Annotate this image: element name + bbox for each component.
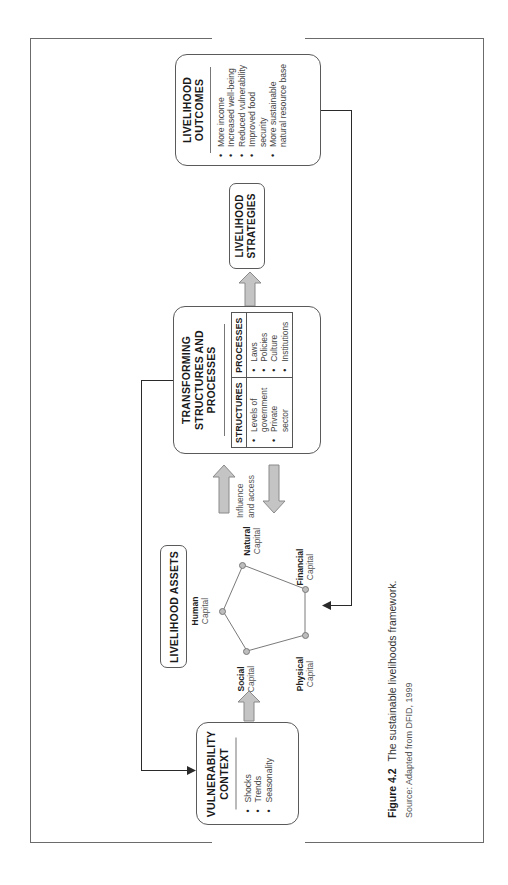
transforming-title: TRANSFORMING STRUCTURES AND PROCESSES <box>180 312 218 448</box>
frame-bottom-right <box>305 842 484 843</box>
structure-item-continuation: government <box>259 382 269 443</box>
human-capital-label: HumanCapital <box>191 589 213 633</box>
vulnerability-item: Shocks <box>242 730 252 813</box>
physical-capital-node <box>302 632 309 639</box>
livelihood-strategies-box: LIVELIHOOD STRATEGIES <box>229 183 265 269</box>
vulnerability-list: Shocks Trends Seasonality <box>242 730 273 813</box>
feedback-line-tsp-horizontal <box>141 380 173 381</box>
outcome-item: Improved food <box>247 62 257 158</box>
livelihood-outcomes-box: LIVELIHOOD OUTCOMES More income Increase… <box>175 54 321 166</box>
structures-header: STRUCTURES <box>231 377 246 447</box>
structure-item-continuation: sector <box>280 382 290 443</box>
assets-title: LIVELIHOOD ASSETS <box>160 545 187 668</box>
feedback-line-outcomes-to-assets <box>328 605 352 606</box>
financial-capital-label: FinancialCapital <box>296 543 318 591</box>
frame-right <box>483 38 484 843</box>
livelihood-assets-box: LIVELIHOOD ASSETS <box>160 545 187 668</box>
process-item: Institutions <box>280 317 290 373</box>
frame-left <box>30 38 31 843</box>
outcome-item: More sustainable <box>268 62 278 158</box>
outcome-item: Increased well-being <box>226 62 236 158</box>
outcomes-divider <box>210 67 211 153</box>
outcome-item: Reduced vulnerability <box>237 62 247 158</box>
physical-capital-label: PhysicalCapital <box>296 650 318 698</box>
structure-item: Private <box>269 382 279 443</box>
vulnerability-item: Seasonality <box>263 730 273 813</box>
frame-top-right <box>305 38 483 39</box>
arrow-to-strategies-icon <box>238 271 262 307</box>
natural-capital-label: NaturalCapital <box>243 519 265 563</box>
structures-processes-table: STRUCTURES PROCESSES Levels of governmen… <box>231 312 294 448</box>
vulnerability-title: VULNERABILITY CONTEXT <box>204 730 229 817</box>
social-capital-node <box>243 648 250 655</box>
frame-bottom-left <box>30 842 212 843</box>
arrowhead-left-icon <box>321 601 331 610</box>
structures-cell: Levels of government Private sector <box>246 377 293 447</box>
process-item: Culture <box>269 317 279 373</box>
feedback-line-tsp-vertical <box>141 380 142 771</box>
feedback-line-outcomes-vertical <box>351 110 352 606</box>
vulnerability-item: Trends <box>252 730 262 813</box>
human-capital-node <box>219 608 226 615</box>
strategies-title: LIVELIHOOD STRATEGIES <box>229 183 258 269</box>
arrowhead-right-icon <box>187 766 197 775</box>
transforming-structures-box: TRANSFORMING STRUCTURES AND PROCESSES ST… <box>173 306 321 454</box>
processes-header: PROCESSES <box>231 313 246 378</box>
feedback-line-tsp-to-vulnerability <box>141 770 189 771</box>
outcomes-list: More income Increased well-being Reduced… <box>216 62 289 158</box>
structure-item: Levels of <box>249 382 259 443</box>
natural-capital-node <box>239 562 246 569</box>
transforming-divider <box>224 324 225 436</box>
vulnerability-context-box: VULNERABILITY CONTEXT Shocks Trends Seas… <box>196 722 299 825</box>
outcome-item-continuation: natural resource base <box>278 62 288 158</box>
outcomes-title: LIVELIHOOD OUTCOMES <box>181 62 205 158</box>
arrow-to-assets-icon <box>237 690 261 722</box>
process-item: Laws <box>249 317 259 373</box>
outcome-item-continuation: security <box>258 62 268 158</box>
figure-title: The sustainable livelihoods framework. <box>386 581 398 762</box>
process-item: Policies <box>259 317 269 373</box>
feedback-line-outcomes-horizontal <box>321 110 352 111</box>
vulnerability-divider <box>235 738 236 810</box>
figure-caption: Figure 4.2 The sustainable livelihoods f… <box>386 581 398 818</box>
influence-access-label: Influence and access <box>226 468 266 518</box>
figure-source: Source: Adapted from DFID, 1999 <box>404 682 414 818</box>
figure-label: Figure 4.2 <box>386 768 398 818</box>
frame-top-left <box>30 38 212 39</box>
processes-cell: Laws Policies Culture Institutions <box>246 313 293 378</box>
outcome-item: More income <box>216 62 226 158</box>
